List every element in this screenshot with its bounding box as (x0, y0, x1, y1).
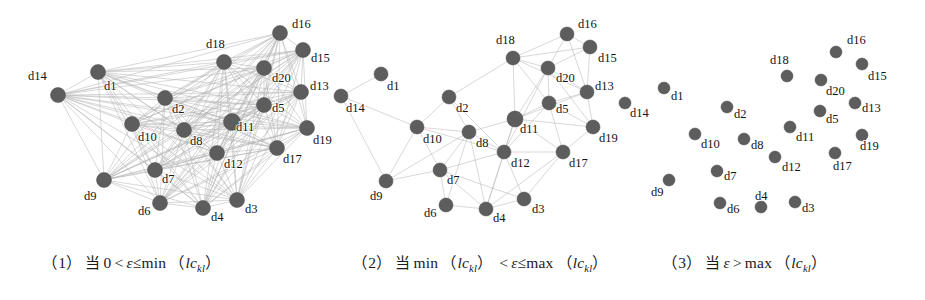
graph-node-label-d4: d4 (211, 210, 224, 224)
graph-node-label-d3: d3 (532, 202, 545, 216)
caption-3-index: （3） (662, 254, 702, 271)
graph-node-label-d20: d20 (272, 71, 291, 85)
caption-1-index: （1） (42, 254, 82, 271)
graph-node-d16 (273, 26, 288, 41)
caption-1-rel2: ≤ (133, 254, 142, 271)
graph-edge (58, 95, 132, 124)
graph-node-d9 (97, 173, 112, 188)
graph-node-d8 (462, 125, 476, 139)
graph-node-label-d20: d20 (826, 84, 845, 98)
graph-node-d17 (556, 145, 570, 159)
caption-2-index: （2） (352, 254, 392, 271)
graph-node-d15 (856, 58, 868, 70)
graph-node-label-d4: d4 (755, 189, 768, 203)
caption-2-cjk: 当 (395, 254, 410, 272)
graph-node-d6 (714, 197, 726, 209)
graph-panel-2: d14d1d18d16d15d20d13d2d5d19d10d8d11d12d1… (330, 0, 630, 240)
graph-node-label-d9: d9 (370, 189, 383, 203)
graph-edge (386, 170, 440, 181)
graph-edge (504, 68, 548, 152)
graph-node-label-d12: d12 (511, 156, 530, 170)
figure-container: d14d1d18d16d15d20d13d2d5d19d10d8d11d12d1… (0, 0, 925, 300)
graph-edge (449, 58, 513, 97)
graph-node-d2 (158, 91, 173, 106)
caption-1-paren-open: （ (169, 254, 185, 271)
graph-node-d2 (721, 101, 733, 113)
graph-node-label-d11: d11 (520, 122, 538, 136)
graph-node-label-d18: d18 (496, 33, 515, 47)
graph-node-label-d15: d15 (868, 69, 887, 83)
graph-node-d15 (296, 43, 311, 58)
graph-node-d7 (711, 165, 723, 177)
graph-node-label-d9: d9 (651, 185, 664, 199)
graph-node-label-d16: d16 (292, 17, 311, 31)
caption-row: （1）当0<ε≤min（lckl） （2）当min（lckl）<ε≤max（lc… (0, 248, 925, 298)
caption-3-arg-base: lc (791, 254, 803, 271)
graph-node-label-d6: d6 (424, 206, 437, 220)
caption-2-paren2-open: （ (557, 254, 573, 271)
graph-edge (386, 127, 417, 181)
graph-svg-3: d14d1d18d16d15d20d13d2d5d19d10d8d11d12d1… (620, 0, 925, 240)
graph-node-label-d16: d16 (578, 17, 597, 31)
caption-1-arg-sub: kl (197, 263, 205, 274)
label-layer-2: d14d1d18d16d15d20d13d2d5d19d10d8d11d12d1… (346, 17, 618, 225)
caption-3-epsilon: ε (724, 254, 730, 271)
graph-node-d8 (738, 133, 750, 145)
graph-node-label-d7: d7 (162, 172, 175, 186)
graph-node-d16 (830, 46, 842, 58)
graph-node-label-d14: d14 (28, 69, 48, 83)
graph-node-d12 (210, 146, 225, 161)
edge-layer-1 (58, 33, 307, 208)
caption-2-rel1: < (499, 254, 508, 271)
graph-edge (160, 98, 165, 203)
graph-node-d19 (586, 120, 600, 134)
graph-node-label-d18: d18 (770, 53, 789, 67)
graph-node-d2 (442, 90, 456, 104)
graph-node-label-d13: d13 (862, 101, 881, 115)
caption-1-zero: 0 (104, 254, 112, 271)
graph-node-d12 (497, 145, 511, 159)
graph-node-d15 (583, 40, 597, 54)
caption-2-paren1-close: ） (477, 254, 493, 271)
graph-node-d10 (410, 120, 424, 134)
graph-node-label-d11: d11 (236, 120, 254, 134)
graph-node-label-d15: d15 (598, 51, 617, 65)
graph-node-d13 (849, 97, 861, 109)
graph-edge (104, 124, 132, 180)
graph-node-label-d13: d13 (595, 79, 614, 93)
graph-node-label-d17: d17 (833, 159, 852, 173)
graph-node-label-d10: d10 (701, 137, 720, 151)
caption-2-rel2: ≤ (518, 254, 527, 271)
graph-node-d5 (814, 105, 826, 117)
graph-node-label-d6: d6 (138, 204, 151, 218)
graph-node-d4 (479, 202, 493, 216)
caption-3-rel: > (733, 254, 742, 271)
graph-node-d4 (196, 201, 211, 216)
caption-3-fn: max (745, 254, 772, 271)
graph-edge (524, 152, 563, 199)
graph-node-label-d1: d1 (104, 79, 117, 93)
graph-node-d3 (517, 192, 531, 206)
graph-node-label-d9: d9 (84, 189, 97, 203)
caption-3-cjk: 当 (705, 254, 720, 272)
graph-panel-1: d14d1d18d16d15d20d13d2d5d19d10d8d11d12d1… (0, 0, 330, 240)
graph-node-d7 (433, 163, 447, 177)
graph-node-label-d18: d18 (206, 37, 225, 51)
graph-node-label-d14: d14 (346, 101, 366, 115)
graph-node-label-d7: d7 (724, 169, 737, 183)
caption-3-arg-sub: kl (803, 263, 811, 274)
edge-layer-2 (341, 34, 593, 209)
graph-node-d5 (542, 96, 556, 110)
graph-edge (58, 33, 280, 95)
graph-node-label-d5: d5 (556, 102, 569, 116)
graph-node-d18 (506, 51, 520, 65)
graph-node-d1 (374, 67, 388, 81)
graph-node-label-d11: d11 (796, 130, 814, 144)
caption-2-paren1-open: （ (441, 254, 457, 271)
caption-2: （2）当min（lckl）<ε≤max（lckl） (352, 248, 609, 284)
graph-node-label-d8: d8 (190, 134, 203, 148)
caption-2-arg1-sub: kl (469, 263, 477, 274)
caption-1-paren-close: ） (205, 254, 221, 271)
graph-node-label-d10: d10 (138, 130, 157, 144)
graph-node-d11 (784, 121, 796, 133)
